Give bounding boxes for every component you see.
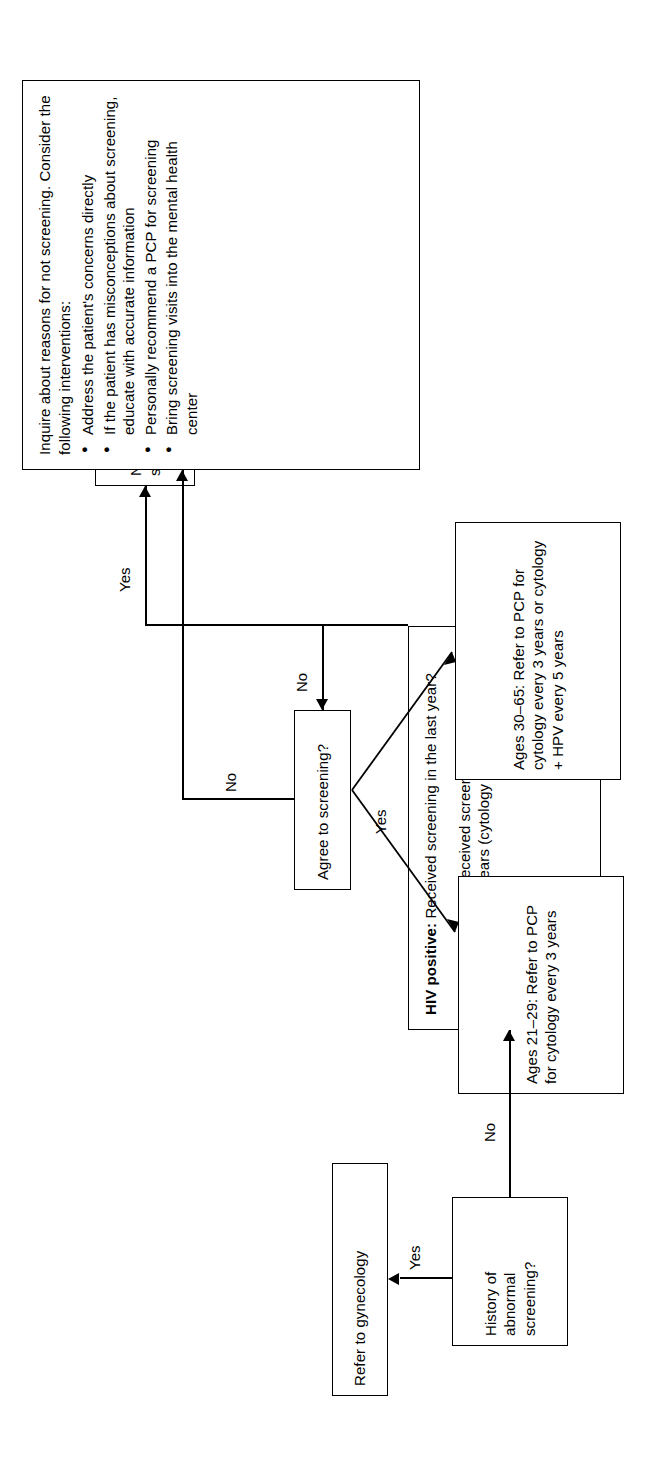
edge-label-screening-no: No [293,673,310,692]
inquire-bullet: Personally recommend a PCP for screening [141,95,161,435]
edge-label-history-yes: Yes [406,1246,423,1270]
edge-agree-to-inquire-link [182,470,184,800]
history-line-3: screening? [520,1207,540,1336]
arrowhead-screening-status-to-no-need [139,486,151,497]
ages-21-29-text: Ages 21–29: Refer to PCP for cytology ev… [522,886,561,1084]
edge-label-agree-yes: Yes [372,810,389,834]
history-line-1: History of [481,1207,501,1336]
gynecology-text: Refer to gynecology [350,1173,370,1386]
inquire-bullet: If the patient has misconceptions about … [100,95,139,435]
edge-label-screening-yes: Yes [116,568,133,592]
inquire-bullet: Address the patient's concerns directly [78,95,98,435]
edge-screening-status-to-agree-segment [322,626,324,710]
edge-history-to-screening-status [509,1030,511,1197]
agree-text: Agree to screening? [313,720,333,880]
ages-30-65-text: Ages 30–65: Refer to PCP for cytology ev… [509,532,568,770]
edge-label-history-no: No [481,1123,498,1142]
edge-history-to-gynecology [400,1277,453,1279]
history-line-2: abnormal [500,1207,520,1336]
inquire-bullet-list: Address the patient's concerns directly … [78,95,201,455]
inquire-bullet: Bring screening visits into the mental h… [162,95,201,435]
inquire-intro: Inquire about reasons for not screening.… [35,95,74,455]
flowchart-canvas: History of abnormal screening? Refer to … [0,0,656,1482]
edge-label-agree-no: No [222,773,239,792]
edge-agree-to-ages-21-29 [340,752,500,1052]
node-refer-to-gynecology[interactable]: Refer to gynecology [332,1163,388,1396]
arrowhead-history-to-screening-status [503,1030,515,1041]
node-inquire-about-reasons[interactable]: Inquire about reasons for not screening.… [22,80,420,470]
edge-agree-to-inquire [182,798,294,800]
arrowhead-history-to-gynecology [388,1273,399,1285]
arrowhead-screening-status-to-agree [316,699,328,710]
arrowhead-agree-to-inquire [176,470,188,481]
node-history-of-abnormal-screening[interactable]: History of abnormal screening? [452,1197,568,1346]
edge-screening-status-to-no-need [145,486,147,626]
